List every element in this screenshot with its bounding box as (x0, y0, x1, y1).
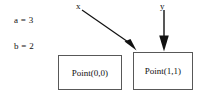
object-box-point-0-0: Point(0,0) (58, 55, 122, 90)
object-label-point-0-0: Point(0,0) (72, 68, 108, 78)
variable-a-label: a = 3 (14, 15, 34, 25)
diagram-canvas: a = 3 b = 2 x y Point(0,0) Point(1,1) (0, 0, 209, 98)
x-arrow-shaft (82, 10, 131, 44)
reference-y-label: y (160, 1, 165, 11)
reference-x-label: x (76, 1, 81, 11)
variable-b-label: b = 2 (14, 41, 34, 51)
object-label-point-1-1: Point(1,1) (145, 66, 181, 76)
x-arrow (82, 10, 137, 51)
x-arrow-head (125, 39, 137, 51)
y-arrow-head (159, 36, 169, 52)
object-box-point-1-1: Point(1,1) (133, 52, 193, 90)
y-arrow (159, 10, 169, 52)
